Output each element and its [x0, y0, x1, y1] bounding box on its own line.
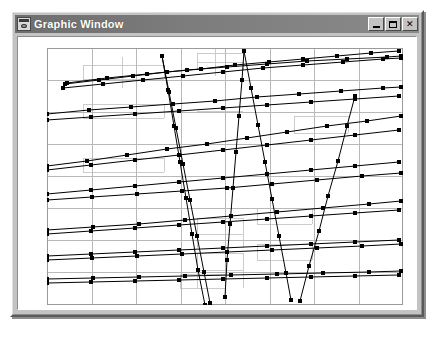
minimize-button[interactable]	[368, 17, 384, 31]
data-point-marker	[47, 258, 49, 262]
data-point-marker	[203, 303, 207, 305]
data-point-marker	[180, 189, 184, 193]
data-point-marker	[61, 86, 65, 90]
data-point-marker	[135, 254, 139, 258]
data-point-marker	[309, 138, 313, 142]
plot-area[interactable]	[47, 48, 403, 305]
data-point-marker	[298, 299, 302, 303]
data-point-marker	[181, 162, 185, 166]
data-point-marker	[397, 208, 401, 212]
data-point-marker	[265, 276, 269, 280]
data-point-marker	[263, 160, 267, 164]
data-point-marker	[221, 176, 225, 180]
data-point-marker	[367, 202, 371, 206]
data-point-marker	[177, 223, 181, 227]
data-point-marker	[265, 217, 269, 221]
data-point-marker	[399, 114, 403, 118]
data-point-marker	[399, 269, 403, 273]
data-point-marker	[315, 178, 319, 182]
data-point-marker	[225, 186, 229, 190]
data-point-marker	[97, 78, 101, 82]
data-point-marker	[184, 196, 188, 200]
data-point-marker	[47, 232, 49, 236]
data-point-marker	[225, 250, 229, 254]
data-point-marker	[321, 271, 325, 275]
data-point-marker	[245, 136, 249, 140]
data-point-marker	[265, 172, 269, 176]
data-point-marker	[369, 51, 373, 55]
data-point-marker	[353, 240, 357, 244]
data-point-marker	[47, 198, 49, 202]
data-point-marker	[90, 195, 94, 199]
data-point-marker	[335, 54, 339, 58]
data-point-marker	[229, 273, 233, 277]
data-point-marker	[47, 228, 49, 232]
data-point-marker	[305, 59, 309, 63]
window-controls: ✕	[368, 17, 418, 31]
data-point-marker	[289, 298, 293, 302]
data-point-marker	[47, 168, 49, 172]
data-point-marker	[309, 275, 313, 279]
data-point-marker	[297, 92, 301, 96]
data-point-marker	[385, 55, 389, 59]
data-point-marker	[89, 252, 93, 256]
data-point-marker	[275, 210, 279, 214]
data-point-marker	[345, 57, 349, 61]
data-point-marker	[367, 270, 371, 274]
data-point-marker	[190, 232, 194, 236]
data-point-marker	[131, 74, 135, 78]
data-point-marker	[397, 49, 401, 53]
data-point-marker	[202, 270, 206, 274]
data-point-marker	[360, 174, 364, 178]
data-point-marker	[225, 258, 229, 262]
data-point-marker	[233, 63, 237, 67]
data-point-marker	[195, 234, 199, 238]
data-point-marker	[205, 142, 209, 146]
data-point-marker	[399, 56, 403, 60]
data-point-marker	[183, 218, 187, 222]
data-point-marker	[240, 78, 244, 82]
data-point-marker	[221, 220, 225, 224]
data-point-marker	[229, 214, 233, 218]
data-point-marker	[309, 168, 313, 172]
data-point-marker	[285, 130, 289, 134]
data-point-marker	[307, 264, 311, 268]
data-point-marker	[160, 54, 164, 58]
maximize-button[interactable]	[385, 17, 401, 31]
data-point-marker	[133, 184, 137, 188]
minimize-icon	[369, 18, 383, 30]
data-point-marker	[399, 242, 403, 246]
data-point-marker	[317, 229, 321, 233]
data-point-marker	[91, 225, 95, 229]
data-point-marker	[339, 89, 343, 93]
data-point-marker	[365, 119, 369, 123]
data-point-marker	[180, 252, 184, 256]
data-point-marker	[315, 246, 319, 250]
window-titlebar[interactable]: Graphic Window ✕	[15, 15, 419, 33]
data-point-marker	[221, 148, 225, 152]
data-point-marker	[177, 153, 181, 157]
data-point-marker	[135, 192, 139, 196]
data-point-marker	[89, 188, 93, 192]
data-point-marker	[249, 86, 253, 90]
data-point-marker	[199, 67, 203, 71]
data-point-marker	[399, 85, 403, 89]
data-point-marker	[188, 198, 192, 202]
graphic-window: Graphic Window ✕	[10, 10, 424, 317]
close-button[interactable]: ✕	[402, 17, 418, 31]
data-point-marker	[89, 115, 93, 119]
data-point-marker	[177, 109, 181, 113]
data-point-marker	[228, 222, 232, 226]
data-point-marker	[221, 246, 225, 250]
data-point-marker	[174, 126, 178, 130]
data-point-marker	[221, 277, 225, 281]
data-point-marker	[326, 194, 330, 198]
data-point-marker	[265, 103, 269, 107]
data-point-marker	[353, 94, 357, 98]
data-point-marker	[129, 105, 133, 109]
data-point-marker	[397, 273, 401, 277]
data-point-marker	[270, 197, 274, 201]
data-point-marker	[242, 49, 246, 53]
data-point-marker	[397, 128, 401, 132]
data-point-marker	[165, 147, 169, 151]
